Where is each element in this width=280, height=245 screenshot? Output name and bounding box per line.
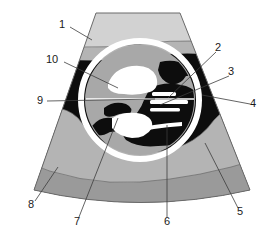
ultrasound-figure: 12345678910: [0, 0, 280, 245]
callout-label-1: 1: [59, 18, 65, 30]
callout-label-8: 8: [28, 198, 34, 210]
ultrasound-sector-scan: 12345678910: [0, 0, 280, 245]
callout-label-5: 5: [237, 205, 243, 217]
white-streak-2: [150, 100, 188, 104]
callout-label-9: 9: [37, 94, 43, 106]
callout-label-6: 6: [164, 215, 170, 227]
callout-label-3: 3: [228, 65, 234, 77]
white-streak-3: [150, 108, 180, 112]
callout-label-4: 4: [250, 97, 256, 109]
callout-label-7: 7: [74, 215, 80, 227]
callout-label-10: 10: [46, 53, 58, 65]
callout-label-2: 2: [215, 41, 221, 53]
